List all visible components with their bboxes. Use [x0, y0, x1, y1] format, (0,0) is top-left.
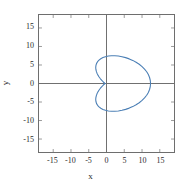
x-tick-label: 15 — [150, 156, 172, 165]
y-axis-title: y — [0, 69, 10, 97]
y-tick-label: 5 — [10, 60, 34, 69]
y-tick-label: -15 — [10, 135, 34, 144]
chart-figure: 151050-5-10-15 -15-10-5051015 x y — [0, 0, 181, 189]
y-tick-label: 0 — [10, 79, 34, 88]
plot-area — [38, 14, 175, 153]
y-tick-label: 15 — [10, 22, 34, 31]
y-tick-label: -5 — [10, 97, 34, 106]
x-axis-title: x — [0, 171, 181, 181]
y-tick-label: 10 — [10, 41, 34, 50]
y-tick-label: -10 — [10, 116, 34, 125]
plot-canvas — [39, 15, 174, 152]
